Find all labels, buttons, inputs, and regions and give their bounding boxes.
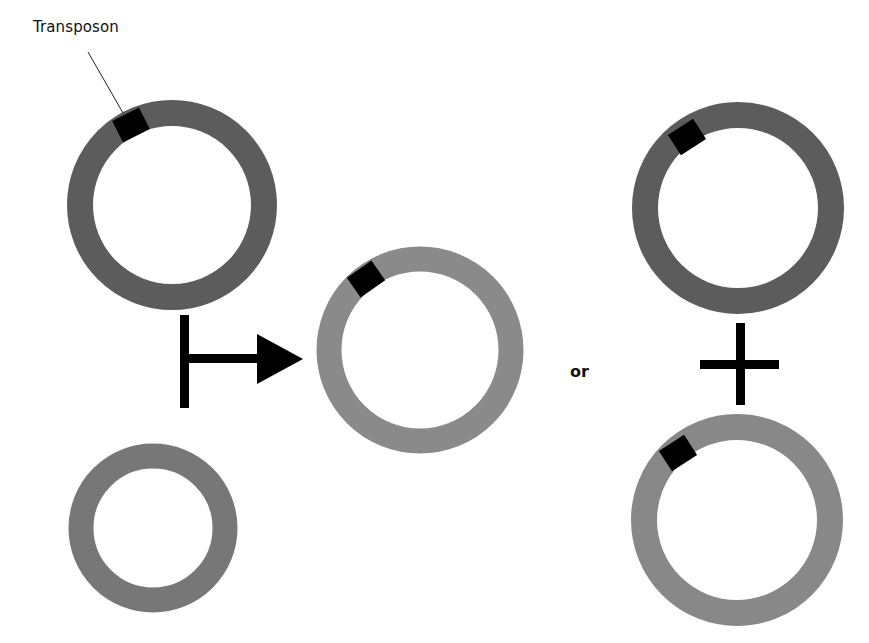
cointegrate-plasmid bbox=[329, 259, 511, 441]
transposition-diagram bbox=[0, 0, 869, 643]
product-donor-plasmid-ring bbox=[645, 115, 831, 301]
arrow-shaft bbox=[189, 354, 259, 363]
product-target-plasmid bbox=[644, 427, 830, 613]
plus-icon bbox=[700, 323, 779, 405]
product-donor-plasmid bbox=[645, 115, 831, 301]
arrow-head-icon bbox=[257, 334, 303, 384]
or-label: or bbox=[570, 364, 589, 380]
transposon-leader-line bbox=[88, 52, 123, 113]
target-plasmid-ring bbox=[81, 456, 225, 600]
plus-horizontal-bar bbox=[700, 360, 779, 369]
process-arrow-icon bbox=[180, 315, 303, 408]
arrow-stem-bar bbox=[180, 315, 189, 408]
transposon-label: Transposon bbox=[33, 20, 119, 35]
target-plasmid bbox=[81, 456, 225, 600]
donor-plasmid-ring bbox=[80, 113, 264, 297]
donor-plasmid bbox=[80, 107, 264, 297]
